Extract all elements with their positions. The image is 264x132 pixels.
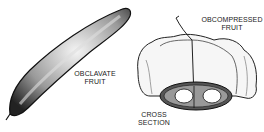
label-line: FRUIT [70, 78, 120, 86]
cross-section-label: CROSS SECTION [136, 111, 172, 127]
label-line: FRUIT [200, 24, 264, 32]
obclavate-fruit-label: OBCLAVATE FRUIT [70, 70, 120, 86]
label-line: CROSS [136, 111, 172, 119]
obclavate-fruit-illustration [6, 8, 131, 120]
label-line: OBCOMPRESSED [200, 16, 264, 24]
label-line: SECTION [136, 119, 172, 127]
label-line: OBCLAVATE [70, 70, 120, 78]
obcompressed-fruit-label: OBCOMPRESSED FRUIT [200, 16, 264, 32]
